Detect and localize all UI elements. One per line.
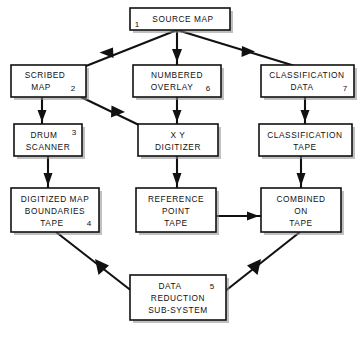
connector-numbered-to-xy: [173, 97, 182, 124]
node-classification-data-line-1: DATA: [290, 82, 313, 92]
node-digitized-line-0: DIGITIZED MAP: [21, 194, 89, 204]
connector-scribed-to-drum: [38, 97, 47, 124]
node-xy-digitizer[interactable]: X Y DIGITIZER: [138, 124, 221, 159]
node-source-map-line-0: SOURCE MAP: [152, 14, 213, 24]
connector-combined-to-data-reduction: [224, 232, 300, 292]
node-classification-data[interactable]: CLASSIFICATION DATA 7: [261, 65, 357, 100]
node-numbered-overlay-number: 6: [206, 84, 211, 93]
node-digitized-map-boundaries-tape[interactable]: DIGITIZED MAP BOUNDARIES TAPE 4: [11, 188, 102, 235]
node-data-reduction-line-2: SUB-SYSTEM: [148, 305, 207, 315]
node-numbered-overlay[interactable]: NUMBERED OVERLAY 6: [133, 65, 224, 100]
node-data-reduction-number: 5: [210, 282, 215, 291]
node-reference-line-1: POINT: [162, 206, 190, 216]
node-scribed-map[interactable]: SCRIBED MAP 2: [11, 65, 89, 100]
flowchart-canvas: SOURCE MAP 1 SCRIBED MAP 2 NUMBERED OVER…: [0, 0, 363, 340]
node-classification-data-line-0: CLASSIFICATION: [269, 70, 344, 80]
node-reference-line-2: TAPE: [164, 218, 187, 228]
connector-source-to-numbered: [172, 30, 182, 65]
node-reference-point-tape[interactable]: REFERENCE POINT TAPE: [136, 188, 219, 235]
node-drum-scanner[interactable]: DRUM SCANNER 3: [14, 124, 85, 159]
connector-scribed-to-xy: [81, 97, 141, 126]
connector-classification-tape-to-combined: [297, 156, 306, 188]
node-numbered-overlay-line-0: NUMBERED: [151, 70, 203, 80]
node-digitized-line-2: TAPE: [40, 218, 63, 228]
node-scribed-map-line-1: MAP: [31, 82, 51, 92]
connector-source-to-classification: [177, 30, 295, 66]
node-data-reduction-sub-system[interactable]: DATA REDUCTION SUB-SYSTEM 5: [130, 275, 229, 323]
connector-source-to-scribed: [86, 30, 177, 66]
flowchart-diagram: SOURCE MAP 1 SCRIBED MAP 2 NUMBERED OVER…: [0, 0, 363, 340]
node-classification-data-number: 7: [343, 84, 348, 93]
node-data-reduction-line-0: DATA: [158, 281, 181, 291]
connector-xy-to-reference: [173, 156, 182, 188]
connector-reference-to-combined: [216, 212, 261, 221]
node-classification-tape[interactable]: CLASSIFICATION TAPE: [259, 124, 355, 159]
node-reference-line-0: REFERENCE: [148, 194, 204, 204]
node-data-reduction-line-1: REDUCTION: [151, 293, 205, 303]
node-classification-tape-line-0: CLASSIFICATION: [267, 130, 342, 140]
node-xy-digitizer-line-1: DIGITIZER: [155, 142, 201, 152]
node-drum-scanner-line-0: DRUM: [30, 130, 57, 140]
node-combined-on-tape[interactable]: COMBINED ON TAPE: [261, 188, 344, 235]
node-drum-scanner-number: 3: [72, 128, 77, 137]
node-digitized-number: 4: [87, 219, 92, 228]
node-digitized-line-1: BOUNDARIES: [25, 206, 85, 216]
connector-digitized-to-data-reduction: [56, 232, 133, 292]
connector-classification-data-to-tape: [301, 97, 310, 124]
node-source-map[interactable]: SOURCE MAP 1: [130, 8, 233, 33]
node-combined-line-0: COMBINED: [276, 194, 325, 204]
node-source-map-number: 1: [135, 20, 140, 29]
node-combined-line-2: TAPE: [289, 218, 312, 228]
connector-drum-to-digitized: [44, 156, 53, 188]
node-numbered-overlay-line-1: OVERLAY: [151, 82, 193, 92]
node-classification-tape-line-1: TAPE: [293, 142, 316, 152]
node-combined-line-1: ON: [294, 206, 308, 216]
node-drum-scanner-line-1: SCANNER: [26, 142, 70, 152]
node-scribed-map-line-0: SCRIBED: [25, 70, 66, 80]
node-scribed-map-number: 2: [71, 84, 76, 93]
node-xy-digitizer-line-0: X Y: [171, 130, 186, 140]
